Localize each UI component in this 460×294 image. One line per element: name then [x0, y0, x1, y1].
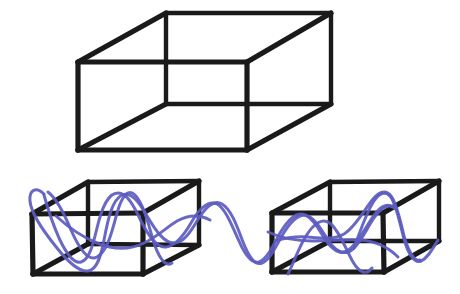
figure-root: [0, 0, 460, 294]
diagram-canvas: [0, 0, 460, 294]
box-edge: [88, 181, 199, 182]
box-edge: [330, 181, 439, 182]
box-edge: [32, 214, 33, 274]
